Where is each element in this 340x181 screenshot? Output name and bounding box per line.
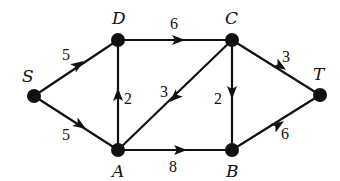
node-d xyxy=(111,33,125,47)
node-c xyxy=(225,33,239,47)
edge-weight-label: 2 xyxy=(214,90,222,107)
edge-weight-label: 3 xyxy=(282,48,290,65)
node-t xyxy=(313,88,327,102)
node-label-c: C xyxy=(225,8,238,28)
node-b xyxy=(225,143,239,157)
edge-weight-label: 5 xyxy=(62,126,70,143)
edge-weight-label: 6 xyxy=(281,125,289,142)
node-label-s: S xyxy=(22,66,34,86)
node-label-a: A xyxy=(110,161,124,181)
node-label-d: D xyxy=(111,8,126,28)
edge-b-t xyxy=(232,95,320,150)
arrows-layer xyxy=(70,35,288,155)
node-label-t: T xyxy=(313,64,326,84)
edge-weight-label: 2 xyxy=(124,90,132,107)
edge-s-a xyxy=(34,96,118,150)
arrowhead-icon xyxy=(166,89,182,105)
edge-weight-label: 8 xyxy=(169,158,177,175)
edge-weight-label: 3 xyxy=(160,83,168,100)
edge-weight-label: 5 xyxy=(62,46,70,63)
edge-weight-label: 6 xyxy=(170,15,178,32)
node-a xyxy=(111,143,125,157)
node-label-b: B xyxy=(225,161,239,181)
node-s xyxy=(27,89,41,103)
flow-network-diagram: 563523286SDCTAB xyxy=(0,0,340,181)
